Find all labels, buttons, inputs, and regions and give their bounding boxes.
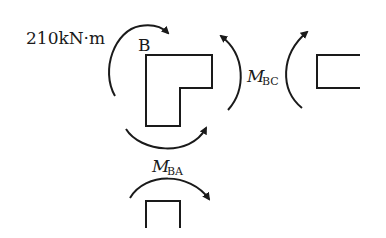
member-bc-end <box>317 55 360 88</box>
moment-ba-joint-arrow-icon <box>126 128 206 148</box>
moment-ba-member-arrow-icon <box>130 179 209 199</box>
moment-bc-subscript: BC <box>262 75 279 88</box>
joint-b-shape <box>146 55 212 126</box>
moment-bc-member-arrow-icon <box>286 32 307 108</box>
moment-ba-subscript: BA <box>167 165 184 178</box>
applied-moment-label: 210kN·m <box>26 28 105 48</box>
joint-label: B <box>138 35 151 55</box>
joint-free-body-diagram: 210kN·m B M BC M BA <box>0 0 386 238</box>
moment-bc-joint-arrow-icon <box>221 36 241 110</box>
member-ba-end <box>146 201 180 228</box>
